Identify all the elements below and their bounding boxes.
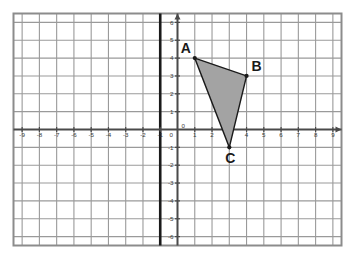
x-tick-label: -1 [157,131,163,138]
x-tick-label: 6 [279,131,283,138]
y-tick-label: -3 [168,179,174,186]
x-tick-label: 7 [297,131,301,138]
x-tick-label: -5 [88,131,94,138]
vertex-dot-b [244,74,248,78]
x-tick-label: 5 [262,131,266,138]
y-tick-label: -4 [168,197,174,204]
x-tick-label: -2 [140,131,146,138]
x-tick-label: 0 [170,131,174,138]
vertex-label-c: C [225,150,235,166]
y-tick-label: 4 [170,54,174,61]
y-tick-label: 5 [170,36,174,43]
vertex-dot-c [227,145,231,149]
x-tick-label: -9 [19,131,25,138]
y-tick-label: 0 [182,122,186,129]
vertex-dot-a [193,56,197,60]
x-tick-label: 2 [210,131,214,138]
x-tick-label: -7 [54,131,60,138]
x-tick-label: 4 [245,131,249,138]
x-tick-label: 9 [331,131,335,138]
y-tick-label: -1 [168,144,174,151]
coordinate-plane-figure: -9-8-7-6-5-4-3-2-10123456789-6-5-4-3-2-1… [0,0,355,266]
x-tick-label: 1 [193,131,197,138]
y-tick-label: 6 [170,19,174,26]
y-tick-label: -6 [168,233,174,240]
vertex-label-a: A [181,40,191,56]
y-tick-label: -5 [168,215,174,222]
y-tick-label: -2 [168,161,174,168]
y-tick-label: 1 [170,108,174,115]
x-tick-label: -8 [37,131,43,138]
x-tick-label: -3 [123,131,129,138]
x-tick-label: -6 [71,131,77,138]
y-tick-label: 3 [170,72,174,79]
x-tick-label: -4 [106,131,112,138]
y-tick-label: 2 [170,90,174,97]
vertex-label-b: B [252,58,262,74]
x-tick-label: 8 [314,131,318,138]
coordinate-grid-svg: -9-8-7-6-5-4-3-2-10123456789-6-5-4-3-2-1… [0,0,355,266]
